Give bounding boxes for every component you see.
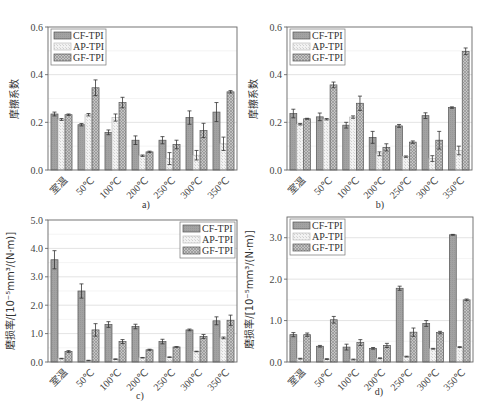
bar-gf-tpi: [65, 351, 72, 362]
bar-cf-tpi: [448, 108, 455, 170]
x-tick-label: 300℃: [414, 175, 440, 201]
y-tick-label: 0.0: [270, 357, 283, 368]
x-tick-label: 100℃: [335, 367, 361, 393]
legend-label: AP-TPI: [312, 231, 343, 242]
y-axis-label: 磨损率/[10⁻⁵mm³/(N·m)]: [243, 230, 255, 348]
legend-label: AP-TPI: [312, 41, 343, 52]
bar-cf-tpi: [51, 114, 58, 170]
bar-cf-tpi: [449, 235, 456, 362]
bar-ap-tpi: [58, 119, 65, 170]
x-tick-label: 250℃: [151, 367, 177, 393]
x-tick-label: 室温: [285, 366, 308, 389]
x-tick-label: 100℃: [335, 175, 361, 201]
legend-swatch-gf-tpi: [54, 54, 71, 61]
x-tick-label: 50℃: [74, 175, 97, 198]
y-tick-label: 3.0: [270, 232, 283, 243]
bar-cf-tpi: [186, 330, 193, 362]
x-tick-label: 300℃: [178, 175, 204, 201]
bar-gf-tpi: [119, 103, 126, 170]
x-tick-label: 室温: [47, 174, 70, 197]
x-tick-label: 350℃: [205, 367, 231, 393]
bar-gf-tpi: [330, 85, 337, 170]
bar-gf-tpi: [92, 88, 99, 170]
y-tick-label: 0.4: [270, 69, 283, 80]
y-tick-label: 1.0: [31, 328, 44, 339]
bar-gf-tpi: [119, 342, 126, 362]
bar-ap-tpi: [193, 351, 200, 362]
chart-panel-1: 0.00.20.40.6室温50℃100℃200℃250℃300℃350℃摩擦系…: [8, 22, 237, 212]
bar-ap-tpi: [402, 157, 409, 170]
y-tick-label: 4.0: [31, 243, 44, 254]
bar-gf-tpi: [357, 103, 364, 170]
legend: CF-TPIAP-TPIGF-TPI: [51, 29, 106, 65]
bar-cf-tpi: [316, 346, 323, 362]
x-tick-label: 200℃: [124, 367, 150, 393]
bar-gf-tpi: [65, 115, 72, 170]
legend-label: AP-TPI: [202, 234, 233, 245]
y-axis-label: 摩擦系数: [8, 79, 20, 119]
bar-cf-tpi: [423, 323, 430, 362]
y-tick-label: 0.6: [270, 22, 283, 33]
legend-label: CF-TPI: [202, 223, 233, 234]
legend-swatch-cf-tpi: [183, 225, 200, 232]
y-tick-label: 0.0: [31, 357, 44, 368]
y-axis-label: 磨损率/[10⁻⁵mm³/(N·m)]: [4, 232, 16, 350]
bar-cf-tpi: [213, 321, 220, 362]
bar-ap-tpi: [323, 119, 330, 170]
bar-cf-tpi: [422, 116, 429, 170]
bar-gf-tpi: [227, 92, 234, 170]
panel-caption: a): [142, 199, 150, 211]
bar-gf-tpi: [330, 320, 337, 362]
legend: CF-TPIAP-TPIGF-TPI: [290, 29, 345, 65]
panel-caption: d): [375, 386, 383, 398]
legend-label: CF-TPI: [312, 30, 343, 41]
legend-swatch-cf-tpi: [293, 32, 310, 39]
panel-caption: c): [136, 390, 144, 402]
bar-ap-tpi: [376, 154, 383, 170]
y-tick-label: 1.0: [270, 315, 283, 326]
bar-cf-tpi: [186, 118, 193, 170]
y-tick-label: 0.2: [270, 117, 283, 128]
bar-ap-tpi: [297, 124, 304, 170]
legend-label: GF-TPI: [73, 52, 104, 63]
legend-swatch-ap-tpi: [293, 233, 310, 240]
x-tick-label: 250℃: [388, 367, 414, 393]
bar-gf-tpi: [383, 345, 390, 362]
x-tick-label: 350℃: [205, 175, 231, 201]
y-tick-label: 5.0: [31, 215, 44, 226]
x-tick-label: 50℃: [74, 367, 97, 390]
x-tick-label: 350℃: [440, 175, 466, 201]
bar-gf-tpi: [200, 336, 207, 362]
bar-gf-tpi: [146, 152, 153, 170]
x-tick-label: 350℃: [441, 367, 467, 393]
bar-gf-tpi: [304, 119, 311, 170]
legend: CF-TPIAP-TPIGF-TPI: [290, 219, 345, 255]
legend-label: GF-TPI: [202, 245, 233, 256]
bar-cf-tpi: [396, 288, 403, 362]
legend-label: CF-TPI: [73, 30, 104, 41]
y-tick-label: 2.0: [270, 274, 283, 285]
x-tick-label: 200℃: [361, 175, 387, 201]
legend-swatch-cf-tpi: [54, 32, 71, 39]
bar-ap-tpi: [456, 347, 463, 362]
chart-panel-4: 0.01.02.03.0室温50℃100℃200℃250℃300℃350℃磨损率…: [243, 217, 473, 398]
bar-gf-tpi: [146, 350, 153, 362]
bar-gf-tpi: [227, 320, 234, 362]
x-tick-label: 250℃: [151, 175, 177, 201]
bar-cf-tpi: [78, 291, 85, 362]
bar-ap-tpi: [220, 338, 227, 362]
x-tick-label: 50℃: [312, 367, 335, 390]
x-tick-label: 室温: [285, 174, 308, 197]
bar-cf-tpi: [396, 126, 403, 170]
bar-gf-tpi: [173, 347, 180, 362]
figure-canvas: 0.00.20.40.6室温50℃100℃200℃250℃300℃350℃摩擦系…: [0, 0, 490, 414]
y-tick-label: 0.0: [270, 165, 283, 176]
bar-gf-tpi: [409, 142, 416, 170]
legend-label: AP-TPI: [73, 41, 104, 52]
bar-cf-tpi: [105, 325, 112, 362]
x-tick-label: 100℃: [97, 367, 123, 393]
chart-panel-2: 0.00.20.40.6室温50℃100℃200℃250℃300℃350℃摩擦系…: [247, 22, 472, 212]
y-tick-label: 0.0: [31, 165, 44, 176]
panel-caption: b): [376, 199, 384, 211]
x-tick-label: 300℃: [178, 367, 204, 393]
